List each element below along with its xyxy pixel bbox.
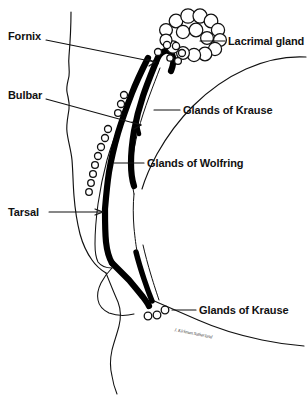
label-glands-of-krause-upper: Glands of Krause (183, 104, 272, 116)
diagram-background (0, 0, 307, 398)
label-fornix: Fornix (8, 30, 42, 42)
label-tarsal: Tarsal (8, 206, 39, 218)
label-glands-of-krause-lower: Glands of Krause (199, 304, 288, 316)
label-bulbar: Bulbar (8, 89, 43, 101)
label-lacrimal-gland: Lacrimal gland (228, 35, 304, 47)
label-glands-of-wolfring: Glands of Wolfring (147, 157, 243, 169)
conjunctiva-anatomy-diagram: Fornix Bulbar Tarsal Lacrimal gland Glan… (0, 0, 307, 398)
figure-root: Fornix Bulbar Tarsal Lacrimal gland Glan… (0, 0, 307, 398)
